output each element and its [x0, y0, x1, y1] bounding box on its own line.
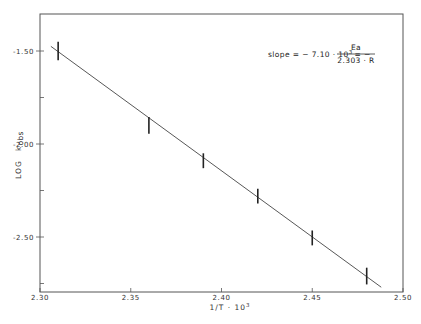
fit-line [51, 46, 381, 287]
arrhenius-chart: -1.50-2.00-2.50 2.302.352.402.452.50 LOG… [0, 0, 421, 324]
y-tick-label: -2.50 [13, 234, 34, 242]
y-axis-title: LOG kobs [14, 131, 25, 179]
y-tick-label: -1.50 [13, 48, 34, 56]
slope-annotation: slope = − 7.10 · 103= − Ea 2.303 · R [268, 43, 375, 65]
data-points [58, 42, 367, 285]
x-axis-title: 1/T · 103 [209, 302, 250, 312]
x-tick-label: 2.35 [122, 294, 140, 302]
x-axis-ticks: 2.302.352.402.452.50 [31, 288, 412, 302]
svg-text:Ea: Ea [351, 43, 361, 52]
x-tick-label: 2.40 [213, 294, 231, 302]
x-tick-label: 2.30 [31, 294, 49, 302]
x-tick-label: 2.50 [394, 294, 412, 302]
svg-text:2.303 · R: 2.303 · R [337, 56, 374, 65]
x-tick-label: 2.45 [303, 294, 321, 302]
svg-text:LOG kobs: LOG kobs [14, 131, 25, 179]
